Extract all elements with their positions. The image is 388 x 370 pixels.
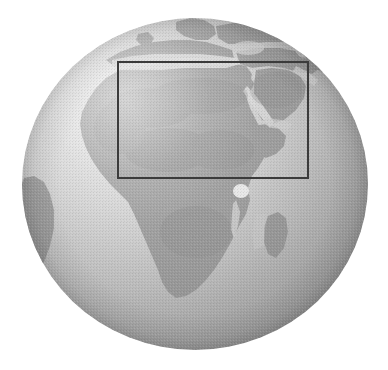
region-of-interest-rectangle[interactable] bbox=[117, 61, 309, 179]
globe-graphic bbox=[0, 0, 388, 370]
film-grain bbox=[0, 0, 388, 370]
globe-viewer bbox=[0, 0, 388, 370]
